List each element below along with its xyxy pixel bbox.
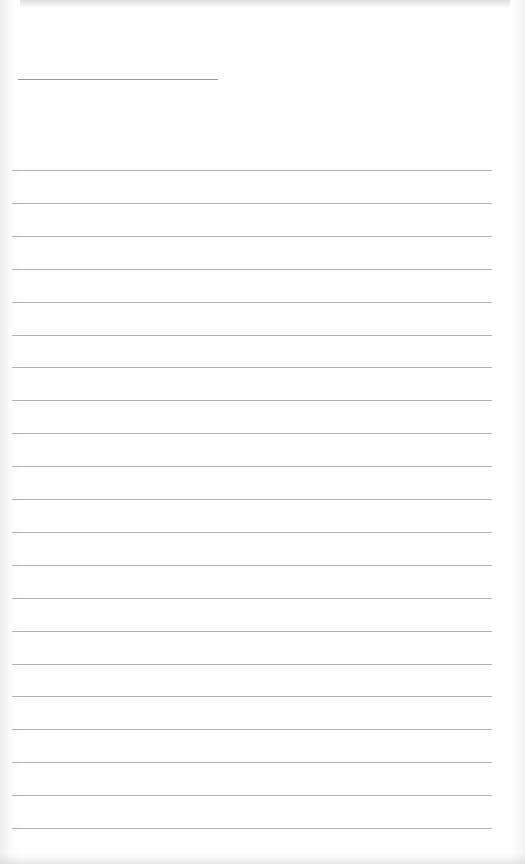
ruled-line — [12, 762, 492, 763]
ruled-line — [12, 302, 492, 303]
ruled-line — [12, 828, 492, 829]
ruled-line — [12, 400, 492, 401]
ruled-line — [12, 795, 492, 796]
ruled-line — [12, 565, 492, 566]
ruled-line — [12, 170, 492, 171]
ruled-line — [12, 631, 492, 632]
ruled-line — [12, 729, 492, 730]
bleed-through-text-bottom — [0, 854, 525, 864]
ruled-line — [12, 499, 492, 500]
ruled-line — [12, 367, 492, 368]
ruled-line — [12, 598, 492, 599]
ruled-line — [12, 532, 492, 533]
ruled-line — [12, 236, 492, 237]
ruled-line — [12, 269, 492, 270]
ruled-line — [12, 664, 492, 665]
ruled-line — [12, 335, 492, 336]
bleed-through-text-top — [20, 0, 510, 8]
lined-page — [0, 0, 525, 864]
ruled-line — [12, 203, 492, 204]
ruled-line — [12, 433, 492, 434]
title-line — [18, 79, 218, 80]
ruled-line — [12, 696, 492, 697]
ruled-line — [12, 466, 492, 467]
